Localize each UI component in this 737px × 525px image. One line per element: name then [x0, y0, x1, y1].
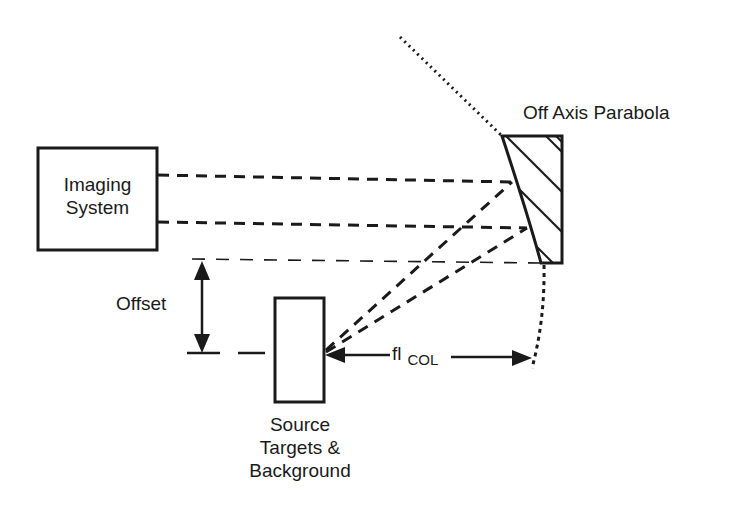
focal-length-subscript: COL	[408, 351, 439, 368]
offset-arrow	[194, 261, 210, 353]
imaging-system-label-line2: System	[38, 196, 157, 219]
source-box	[275, 298, 324, 402]
focal-length-symbol: fl	[392, 343, 402, 364]
imaging-system-label-line1: Imaging	[38, 173, 157, 196]
optical-axis-line	[192, 259, 540, 263]
imaging-system-label: Imaging System	[38, 173, 157, 219]
off-axis-parabola-label: Off Axis Parabola	[523, 101, 669, 124]
diagram-canvas	[0, 0, 737, 525]
off-axis-parabola-mirror	[440, 110, 600, 350]
focal-length-label: flCOL	[392, 342, 438, 366]
source-label-line3: Background	[240, 459, 360, 482]
source-label-line1: Source	[240, 413, 360, 436]
source-label-line2: Targets &	[240, 436, 360, 459]
offset-label: Offset	[116, 292, 166, 315]
source-label: Source Targets & Background	[240, 413, 360, 482]
collimated-rays	[158, 175, 527, 352]
